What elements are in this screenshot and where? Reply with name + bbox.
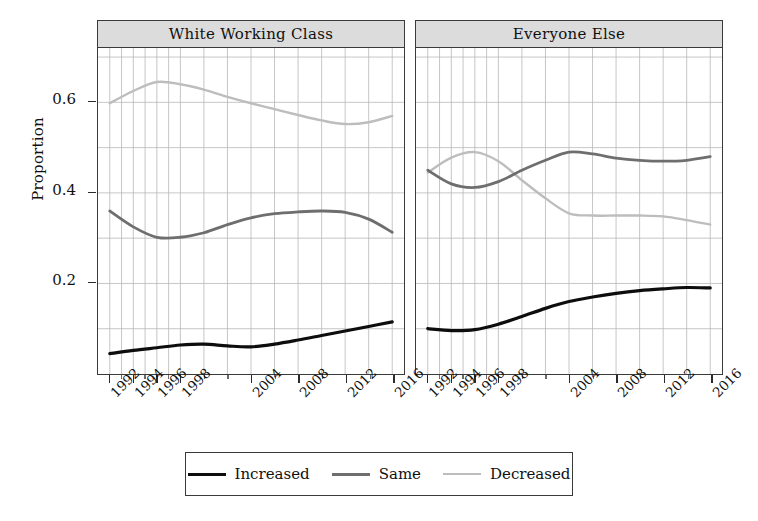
- x-minor-tick: [227, 375, 228, 379]
- legend-item[interactable]: Decreased: [443, 465, 570, 483]
- plot-area-right: [416, 48, 722, 374]
- facet-panel-white-working-class: White Working Class: [97, 20, 405, 375]
- x-axis-labels-left: 19921994199619982004200820122016: [97, 385, 417, 445]
- legend-item[interactable]: Increased: [188, 465, 310, 483]
- chart-root: Proportion 0.20.40.6 White Working Class…: [0, 0, 758, 521]
- x-tick-mark: [664, 375, 665, 383]
- x-tick-mark: [616, 375, 617, 383]
- x-axis-labels-right: 19921994199619982004200820122016: [415, 385, 735, 445]
- plot-svg-right: [416, 48, 722, 374]
- facet-strip-title: Everyone Else: [416, 21, 722, 48]
- legend-label: Increased: [235, 465, 310, 483]
- legend-line-swatch: [443, 473, 481, 475]
- y-tick-mark: [88, 101, 96, 102]
- x-tick-mark: [427, 375, 428, 383]
- legend-line-swatch: [332, 473, 370, 476]
- legend-label: Decreased: [490, 465, 570, 483]
- y-tick-mark: [88, 282, 96, 283]
- x-tick-mark: [298, 375, 299, 383]
- y-tick-mark: [88, 192, 96, 193]
- x-tick-mark: [109, 375, 110, 383]
- plot-svg-left: [98, 48, 404, 374]
- facet-strip-title: White Working Class: [98, 21, 404, 48]
- facet-panel-everyone-else: Everyone Else: [415, 20, 723, 375]
- x-tick-mark: [346, 375, 347, 383]
- y-tick-label: 0.4: [32, 183, 76, 198]
- x-tick-mark: [569, 375, 570, 383]
- x-tick-mark: [251, 375, 252, 383]
- x-minor-tick: [545, 375, 546, 379]
- x-tick-mark: [711, 375, 712, 383]
- legend-line-swatch: [188, 473, 226, 476]
- x-tick-mark: [393, 375, 394, 383]
- y-axis-title: Proportion: [29, 59, 47, 259]
- legend: IncreasedSameDecreased: [185, 452, 573, 496]
- y-tick-label: 0.6: [32, 92, 76, 107]
- y-tick-label: 0.2: [32, 273, 76, 288]
- legend-item[interactable]: Same: [332, 465, 421, 483]
- plot-area-left: [98, 48, 404, 374]
- legend-label: Same: [379, 465, 421, 483]
